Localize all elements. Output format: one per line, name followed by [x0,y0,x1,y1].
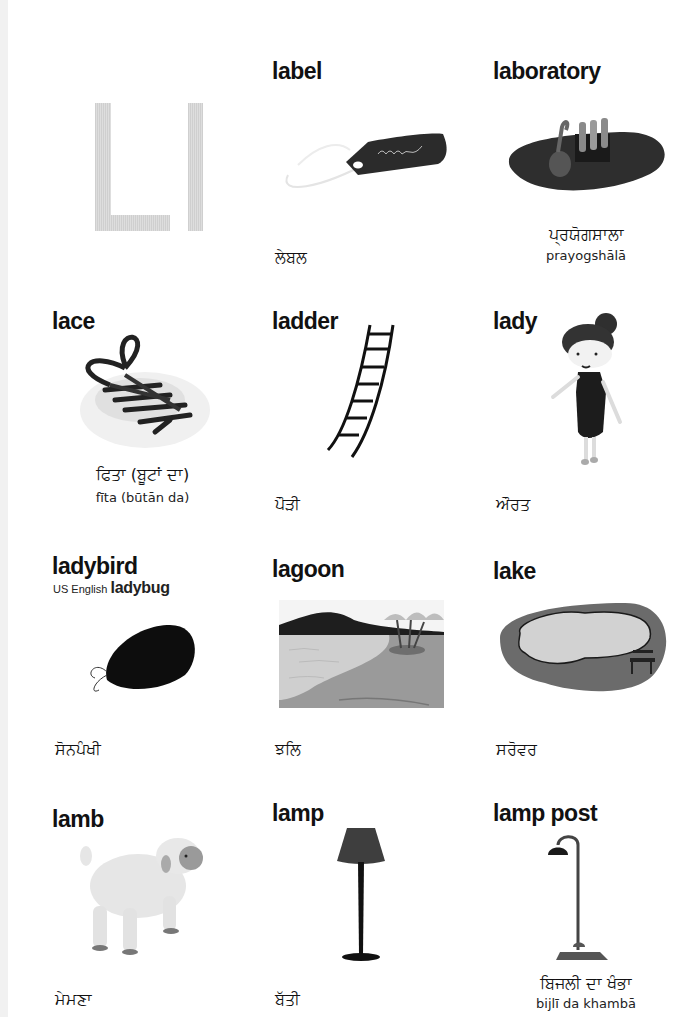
lamp-post-icon [548,835,614,963]
entry-transliteration: bijlī da khambā [493,996,679,1011]
entry-punjabi: ਬੱਤੀ [275,990,300,1009]
us-english-prefix: US English [53,583,107,595]
lagoon-icon [279,600,444,708]
entry-word: lake [493,558,536,585]
ladybird-icon [85,620,200,695]
entry-punjabi: ਸੋਨਪੰਖੀ [55,740,101,759]
lake-icon [495,598,670,698]
entry-word: lamp post [493,800,597,827]
entry-word: lagoon [272,556,344,583]
lady-icon [548,312,628,467]
shoelace-icon [70,330,215,455]
big-letter-ll [92,100,207,232]
letter-L-foot [95,215,170,231]
letter-l-vertical [188,103,203,231]
us-english-note: US English ladybug [53,579,170,597]
entry-word: ladybird [52,553,137,580]
letter-L-vertical [95,103,111,231]
entry-punjabi: ਔਰਤ [496,495,530,514]
entry-word: label [272,58,322,85]
entry-punjabi: ਬਿਜਲੀ ਦਾ ਖੰਭਾ [493,974,679,993]
entry-punjabi: ਪੌੜੀ [275,495,300,514]
us-english-word: ladybug [110,579,169,596]
lamb-icon [78,836,208,961]
entry-punjabi: ਮੇਮਣਾ [55,990,92,1009]
lamp-icon [335,826,387,962]
ladder-icon [325,322,400,462]
entry-punjabi: ਝਲਿ [275,740,301,759]
entry-transliteration: fīta (būtān da) [40,490,245,505]
entry-punjabi: ਪ੍ਰਯੋਗਸ਼ਾਲਾ [493,225,679,244]
entry-transliteration: prayogshālā [493,248,679,263]
label-tag-icon [278,120,448,200]
test-tubes-icon [500,112,670,202]
entry-punjabi: ਲੇਬਲ [275,248,307,267]
entry-word: lamb [52,806,104,833]
entry-punjabi: ਸਰੋਵਰ [496,740,537,759]
entry-punjabi: ਫਿਤਾ (ਬੂਟਾਂ ਦਾ) [40,465,245,484]
entry-word: lamp [272,800,324,827]
entry-word: laboratory [493,58,600,85]
entry-word: lady [493,308,537,335]
page-edge-strip [0,0,8,1017]
